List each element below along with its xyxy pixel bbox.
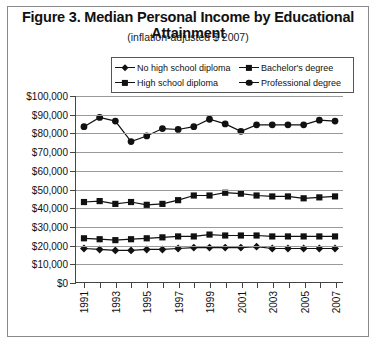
data-point [159,201,165,207]
data-point [300,121,307,128]
data-point [128,236,134,242]
plot-area: $0$10,000$20,000$30,000$40,000$50,000$60… [75,96,343,283]
data-point [285,233,291,239]
x-axis-label: 2007 [331,291,342,313]
legend-item-high-school-diploma: High school diploma [115,78,239,88]
data-point [128,138,135,145]
y-axis-tick [70,264,76,265]
gridline [76,171,343,172]
gridline [76,96,343,97]
data-point [316,233,322,239]
x-axis-tick [210,282,211,288]
data-point [222,121,229,128]
figure-subtitle: (inflation-adjusted $ 2007) [0,31,376,43]
data-point [81,123,88,130]
legend-item-professional-degree: Professional degree [239,78,353,88]
x-axis-tick [336,282,337,288]
data-point [301,233,307,239]
data-point [253,243,261,251]
x-axis-tick [100,282,101,288]
x-axis-tick [226,282,227,288]
legend-label: Professional degree [261,78,341,88]
y-axis-label: $80,000 [32,128,68,139]
data-point [158,246,166,254]
y-axis-tick [70,115,76,116]
data-point [332,118,339,125]
gridline [76,208,343,209]
data-point [127,246,135,254]
x-axis-tick [257,282,258,288]
data-point [81,199,87,205]
data-point [112,118,119,125]
data-point [159,234,165,240]
data-point [269,193,275,199]
gridline [76,246,343,247]
x-axis-tick [320,282,321,288]
legend-label: High school diploma [137,78,218,88]
data-point [191,192,197,198]
y-axis-tick [70,246,76,247]
x-axis-label: 2003 [268,291,279,313]
gridline [76,227,343,228]
data-point [316,117,323,124]
legend-label: No high school diploma [137,63,231,73]
data-point [144,235,150,241]
data-point [253,121,260,128]
data-point [332,233,338,239]
x-axis-label: 1999 [205,291,216,313]
data-point [222,232,228,238]
figure-container: Figure 3. Median Personal Income by Educ… [0,0,376,343]
y-axis-tick [70,283,76,284]
x-axis-tick [273,282,274,288]
data-point [175,126,182,133]
diamond-marker-icon [115,63,135,73]
data-point [112,237,118,243]
data-point [301,195,307,201]
square-marker-icon [115,78,135,88]
gridline [76,190,343,191]
x-axis-tick [194,282,195,288]
data-point [238,232,244,238]
x-axis-tick [179,282,180,288]
data-point [81,235,87,241]
data-point [128,199,134,205]
x-axis-label: 1995 [142,291,153,313]
x-axis-label: 2005 [299,291,310,313]
data-point [222,190,228,196]
y-axis-label: $10,000 [32,259,68,270]
y-axis-tick [70,96,76,97]
gridline [76,152,343,153]
data-point [316,194,322,200]
data-point [143,246,151,254]
x-axis-label: 2001 [236,291,247,313]
legend-item-bachelors-degree: Bachelor's degree [239,63,353,73]
data-point [206,231,212,237]
data-point [253,232,259,238]
circle-marker-icon [239,78,259,88]
data-point [111,246,119,254]
data-point [269,233,275,239]
data-point [97,198,103,204]
data-point [206,116,213,123]
y-axis-label: $30,000 [32,221,68,232]
data-point [97,236,103,242]
data-point [96,246,104,254]
y-axis-label: $60,000 [32,165,68,176]
y-axis-label: $70,000 [32,147,68,158]
data-point [285,193,291,199]
y-axis-label: $0 [57,278,68,289]
y-axis-label: $40,000 [32,203,68,214]
data-point [159,125,166,132]
x-axis-tick [84,282,85,288]
x-axis-tick [116,282,117,288]
data-point [175,197,181,203]
x-axis-tick [131,282,132,288]
data-point [253,192,259,198]
data-point [332,193,338,199]
y-axis-tick [70,227,76,228]
data-point [112,201,118,207]
y-axis-tick [70,133,76,134]
x-axis-tick [289,282,290,288]
square-marker-icon [239,63,259,73]
legend-label: Bachelor's degree [261,63,333,73]
